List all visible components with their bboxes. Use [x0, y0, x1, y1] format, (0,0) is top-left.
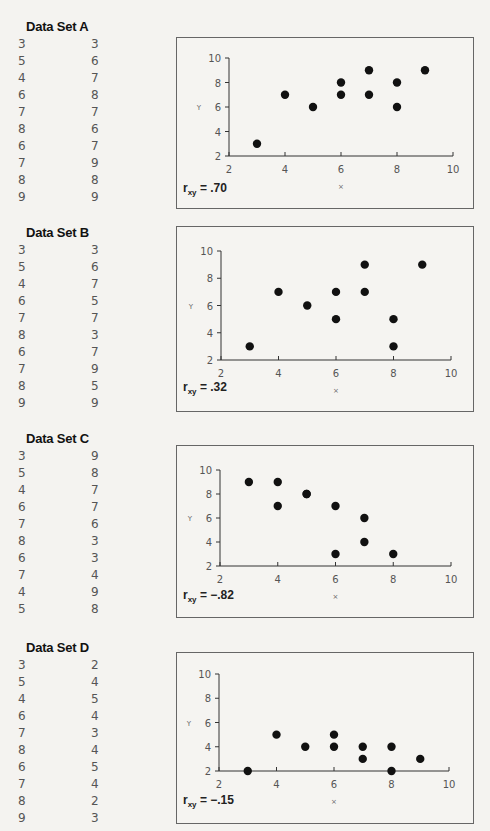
data-point — [332, 288, 340, 296]
scatter-chart: 246810246810Y× rxy = .70 — [176, 37, 474, 209]
x-tick-label: 2 — [216, 779, 222, 790]
y-tick-label: 2 — [215, 151, 221, 162]
x-tick-label: 10 — [445, 368, 458, 379]
y-value: 6 — [91, 516, 99, 533]
x-tick-label: 10 — [443, 779, 456, 790]
data-set-title: Data Set C — [26, 431, 89, 446]
x-value: 6 — [18, 550, 26, 567]
x-value: 7 — [18, 361, 26, 378]
x-value: 4 — [18, 276, 26, 293]
data-point — [281, 91, 289, 99]
y-tick-label: 10 — [199, 465, 212, 476]
y-value: 9 — [91, 448, 99, 465]
data-point — [330, 743, 338, 751]
x-tick-label: 4 — [275, 368, 281, 379]
x-tick-label: 4 — [282, 164, 288, 175]
y-value: 3 — [91, 810, 99, 827]
x-value: 8 — [18, 793, 26, 810]
x-tick-label: 8 — [394, 164, 400, 175]
y-value: 4 — [91, 674, 99, 691]
x-value: 7 — [18, 567, 26, 584]
data-point — [359, 755, 367, 763]
data-point — [389, 342, 397, 350]
x-value: 4 — [18, 691, 26, 708]
x-value: 9 — [18, 189, 26, 206]
y-value: 8 — [91, 87, 99, 104]
x-tick-label: 6 — [331, 779, 337, 790]
y-tick-label: 6 — [205, 718, 211, 729]
y-tick-label: 2 — [207, 355, 213, 366]
x-value: 4 — [18, 482, 26, 499]
x-tick-label: 10 — [445, 574, 458, 585]
data-point — [272, 730, 280, 738]
x-value: 7 — [18, 725, 26, 742]
x-value: 6 — [18, 499, 26, 516]
y-axis-label: Y — [187, 515, 193, 523]
y-value: 2 — [91, 793, 99, 810]
x-tick-label: 2 — [226, 164, 232, 175]
data-point — [303, 301, 311, 309]
y-value: 8 — [91, 465, 99, 482]
scatter-chart: 246810246810Y× rxy = .32 — [176, 226, 474, 412]
x-value: 5 — [18, 53, 26, 70]
y-value: 8 — [91, 601, 99, 618]
x-tick-label: 6 — [333, 368, 339, 379]
data-point — [274, 478, 282, 486]
data-point — [332, 315, 340, 323]
y-value: 8 — [91, 172, 99, 189]
x-value: 4 — [18, 584, 26, 601]
data-point — [365, 91, 373, 99]
x-value: 9 — [18, 810, 26, 827]
x-tick-label: 8 — [388, 779, 394, 790]
data-point — [330, 730, 338, 738]
y-value: 7 — [91, 104, 99, 121]
y-tick-label: 6 — [206, 513, 212, 524]
y-value: 7 — [91, 310, 99, 327]
scatter-chart: 246810246810Y× rxy = −.82 — [176, 445, 474, 618]
data-point — [309, 103, 317, 111]
y-value: 9 — [91, 361, 99, 378]
x-axis-label: × — [338, 183, 344, 191]
x-value: 7 — [18, 155, 26, 172]
data-point — [361, 260, 369, 268]
y-tick-label: 4 — [205, 742, 211, 753]
data-point — [253, 140, 261, 148]
y-value: 3 — [91, 327, 99, 344]
data-point — [331, 550, 339, 558]
y-tick-label: 8 — [205, 693, 211, 704]
y-axis-label: Y — [196, 104, 202, 112]
y-tick-label: 4 — [206, 537, 212, 548]
y-value: 7 — [91, 499, 99, 516]
x-value: 3 — [18, 657, 26, 674]
y-value: 5 — [91, 691, 99, 708]
x-value: 6 — [18, 344, 26, 361]
data-point — [360, 538, 368, 546]
data-point — [393, 103, 401, 111]
data-point — [359, 743, 367, 751]
y-value: 7 — [91, 344, 99, 361]
data-point — [302, 490, 310, 498]
y-value: 3 — [91, 533, 99, 550]
data-point — [389, 315, 397, 323]
y-tick-label: 4 — [207, 328, 213, 339]
y-value: 5 — [91, 293, 99, 310]
data-point — [274, 502, 282, 510]
x-value: 8 — [18, 378, 26, 395]
data-point — [337, 91, 345, 99]
x-tick-label: 10 — [447, 164, 460, 175]
y-value: 3 — [91, 242, 99, 259]
data-point — [387, 767, 395, 775]
x-value: 8 — [18, 742, 26, 759]
x-value: 7 — [18, 310, 26, 327]
y-value: 5 — [91, 759, 99, 776]
y-value: 4 — [91, 567, 99, 584]
data-point — [387, 743, 395, 751]
y-value: 9 — [91, 155, 99, 172]
y-value: 9 — [91, 584, 99, 601]
y-axis-label: Y — [188, 303, 194, 311]
scatter-chart: 246810246810Y× rxy = −.15 — [176, 652, 474, 824]
x-axis-label: × — [333, 593, 339, 601]
y-value: 4 — [91, 708, 99, 725]
data-point — [274, 288, 282, 296]
y-value: 3 — [91, 725, 99, 742]
